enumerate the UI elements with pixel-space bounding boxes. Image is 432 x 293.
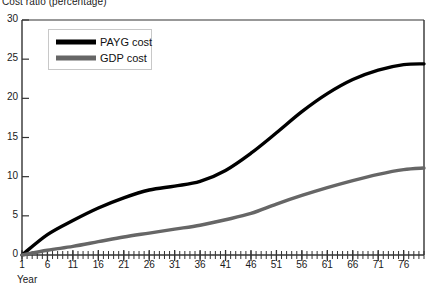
legend-entry-payg-cost: PAYG cost	[56, 35, 152, 49]
x-tick-label: 76	[389, 259, 419, 270]
legend-label-gdp-cost: GDP cost	[100, 52, 147, 64]
series-line-gdp-cost	[22, 168, 424, 255]
chart-legend: PAYG cost GDP cost	[48, 29, 152, 70]
y-tick-label: 20	[0, 91, 18, 102]
y-tick-label: 30	[0, 13, 18, 24]
legend-entry-gdp-cost: GDP cost	[56, 51, 147, 65]
y-tick-label: 10	[0, 170, 18, 181]
chart-container: Cost ratio (percentage) 051015202530 161…	[0, 0, 432, 293]
y-tick-label: 25	[0, 52, 18, 63]
legend-line-swatch-gdp	[56, 51, 96, 65]
series-line-payg-cost	[22, 64, 424, 255]
y-tick-label: 0	[0, 248, 18, 259]
series-lines	[22, 64, 424, 255]
y-tick-label: 5	[0, 209, 18, 220]
y-tick-label: 15	[0, 131, 18, 142]
y-major-ticks	[22, 20, 29, 255]
legend-line-swatch-payg	[56, 35, 96, 49]
legend-label-payg-cost: PAYG cost	[100, 36, 152, 48]
x-axis-title: Year	[17, 274, 37, 285]
